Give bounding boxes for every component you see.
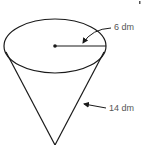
cone-diagram: 6 dm 14 dm <box>0 0 143 145</box>
slant-arrow <box>84 104 106 108</box>
slant-height-label: 14 dm <box>109 103 134 113</box>
cone-right-side <box>55 52 104 145</box>
stray-mark <box>139 1 141 4</box>
radius-label: 6 dm <box>114 22 134 32</box>
cone-left-side <box>6 52 55 145</box>
